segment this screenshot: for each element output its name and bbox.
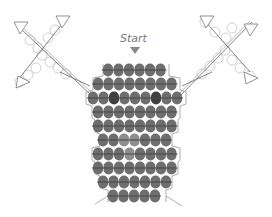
bead-row [92,106,178,119]
bead-row [97,134,172,147]
bead-row [92,120,178,133]
needle-eye-icon [244,24,258,36]
bead-row [102,64,167,77]
bead-rows [87,64,183,203]
needle-eye-icon [14,22,28,34]
left-needle-assembly [14,16,94,96]
tail-thread-left [95,196,108,204]
bead-row [107,190,161,203]
right-needle-assembly [178,16,258,96]
bead-row [97,176,172,189]
start-label: Start [120,32,147,45]
start-arrow-icon [130,47,140,54]
ghost-beads-left [15,25,71,87]
bead-row [87,92,183,105]
bead-row [92,78,178,91]
bead-row [92,148,178,161]
needle-eye-icon [244,72,258,84]
bead-row [92,162,178,175]
tail-thread-right [166,196,182,206]
